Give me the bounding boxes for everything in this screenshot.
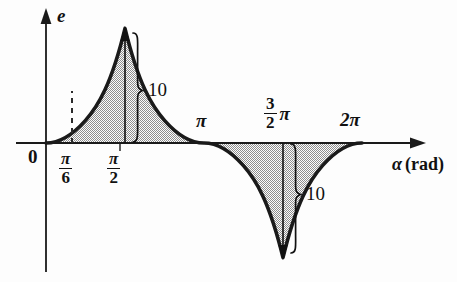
pi-suffix: π xyxy=(280,104,290,123)
amplitude-arrow-down-head xyxy=(278,245,287,260)
x-axis-unit: (rad) xyxy=(405,155,444,173)
x-axis-symbol: α xyxy=(392,155,402,173)
amplitude-label-negative: 10 xyxy=(306,184,325,203)
x-axis-label: α (rad) xyxy=(392,155,444,173)
tick-label-pi-over-2: π 2 xyxy=(107,150,120,186)
tick-label-two-pi: 2π xyxy=(340,110,360,129)
x-axis-arrowhead xyxy=(410,138,426,149)
fraction-numerator: 3 xyxy=(264,95,277,113)
fraction-three-halves: 3 2 xyxy=(264,95,277,131)
fraction-numerator: π xyxy=(107,150,120,168)
amplitude-label-positive: 10 xyxy=(148,80,167,99)
fraction-denominator: 6 xyxy=(59,168,72,187)
amplitude-arrow-up-head xyxy=(120,26,129,41)
tick-label-pi: π xyxy=(196,111,206,130)
fraction-pi-over-6: π 6 xyxy=(59,150,72,186)
waveform-plot xyxy=(0,0,457,282)
fraction-denominator: 2 xyxy=(107,168,120,187)
origin-label: 0 xyxy=(28,147,38,166)
tick-label-three-halves-pi: 3 2 π xyxy=(264,95,290,131)
tick-label-pi-over-6: π 6 xyxy=(59,150,72,186)
sine-waveform-figure: e 0 π 6 π 2 π 3 2 π 2π α (rad) xyxy=(0,0,457,282)
fraction-denominator: 2 xyxy=(264,113,277,132)
fraction-numerator: π xyxy=(59,150,72,168)
fraction-pi-over-2: π 2 xyxy=(107,150,120,186)
y-axis-arrowhead xyxy=(41,8,52,24)
y-axis-label: e xyxy=(57,6,65,25)
